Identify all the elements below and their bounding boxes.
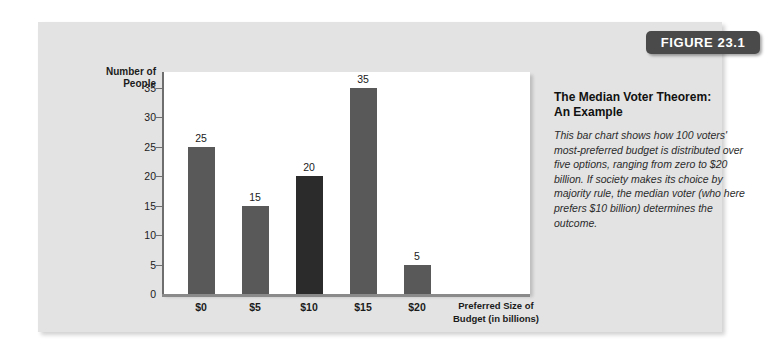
y-tick-label: 15	[120, 200, 156, 212]
y-tick-mark	[156, 176, 162, 177]
x-axis-title: Preferred Size of Budget (in billions)	[430, 299, 562, 325]
y-tick-label: 35	[120, 82, 156, 94]
y-tick-mark	[156, 117, 162, 118]
x-tick-label: $5	[228, 301, 282, 313]
bar-15	[350, 88, 377, 295]
y-tick-label: 20	[120, 170, 156, 182]
caption-panel: The Median Voter Theorem: An Example Thi…	[554, 90, 750, 230]
y-tick-label: 25	[120, 141, 156, 153]
x-tick-label: $15	[336, 301, 390, 313]
y-axis-title-line1: Number of	[68, 66, 156, 78]
y-tick-mark	[156, 88, 162, 89]
bar-value-label: 25	[174, 132, 228, 144]
bar-value-label: 5	[390, 250, 444, 262]
bar-value-label: 20	[282, 161, 336, 173]
caption-title-line1: The Median Voter Theorem:	[554, 90, 750, 105]
figure-card: FIGURE 23.1 Number of People 05101520253…	[38, 22, 722, 332]
bar-20	[404, 265, 431, 295]
y-tick-mark	[156, 235, 162, 236]
y-tick-mark	[156, 206, 162, 207]
bar-0	[188, 147, 215, 295]
x-axis-line	[162, 294, 530, 297]
y-tick-mark	[156, 265, 162, 266]
y-tick-label: 5	[120, 259, 156, 271]
y-axis-line	[162, 72, 164, 296]
x-axis-title-line1: Preferred Size of	[430, 299, 562, 312]
caption-title: The Median Voter Theorem: An Example	[554, 90, 750, 119]
figure-number-label: FIGURE 23.1	[661, 35, 746, 50]
x-tick-label: $10	[282, 301, 336, 313]
y-tick-label: 10	[120, 229, 156, 241]
y-tick-mark	[156, 147, 162, 148]
figure-number-badge: FIGURE 23.1	[646, 31, 760, 54]
bar-value-label: 35	[336, 73, 390, 85]
x-axis-title-line2: Budget (in billions)	[430, 312, 562, 325]
bar-value-label: 15	[228, 191, 282, 203]
bar-5	[242, 206, 269, 295]
plot-area	[162, 72, 530, 294]
caption-body: This bar chart shows how 100 voters' mos…	[554, 128, 750, 230]
bar-10	[296, 176, 323, 294]
y-tick-label: 0	[120, 288, 156, 300]
caption-title-line2: An Example	[554, 105, 750, 120]
y-tick-label: 30	[120, 111, 156, 123]
x-tick-label: $0	[174, 301, 228, 313]
